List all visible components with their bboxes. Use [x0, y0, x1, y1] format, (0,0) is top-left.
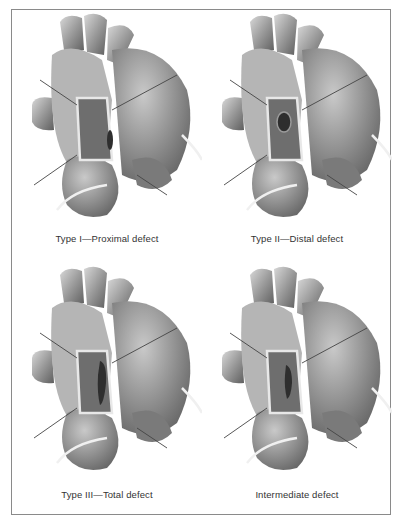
panel-intermediate: Intermediate defect — [202, 263, 392, 516]
defect-distal — [277, 112, 291, 132]
panel-caption: Type II—Distal defect — [202, 233, 392, 244]
heart-illustration — [12, 263, 202, 478]
panel-caption: Type I—Proximal defect — [12, 233, 202, 244]
panel-type-ii: Type II—Distal defect — [202, 10, 392, 263]
panel-caption: Type III—Total defect — [12, 489, 202, 500]
heart-illustration — [202, 10, 392, 225]
panel-type-i: Type I—Proximal defect — [12, 10, 202, 263]
defect-proximal — [107, 130, 113, 150]
heart-illustration — [12, 10, 202, 225]
heart-illustration — [202, 263, 392, 478]
panel-type-iii: Type III—Total defect — [12, 263, 202, 516]
panel-caption: Intermediate defect — [202, 489, 392, 500]
figure-frame: Type I—Proximal defect Type II—Distal de… — [11, 9, 391, 515]
